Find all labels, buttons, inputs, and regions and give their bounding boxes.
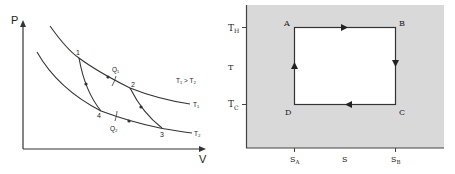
isotherm-cold-label: T₂ xyxy=(194,130,201,137)
tick-sb-label: SB xyxy=(391,155,401,165)
arrow-1-2-icon xyxy=(106,75,109,78)
isotherm-cold xyxy=(37,52,192,133)
v-axis-arrow-icon xyxy=(199,146,206,152)
tick-tc-label: TC xyxy=(228,99,239,111)
cycle-area xyxy=(295,28,396,105)
corner-c-label: C xyxy=(399,108,405,117)
heat-in-label: Q₁ xyxy=(112,66,120,74)
v-axis-label: V xyxy=(199,153,207,165)
point-4-label: 4 xyxy=(97,112,101,119)
t-axis-label: T xyxy=(228,63,234,72)
heat-out-label: Q₂ xyxy=(110,125,118,133)
p-axis-arrow-icon xyxy=(20,20,26,27)
tick-sa-label: SA xyxy=(290,155,300,165)
carnot-cycle-figure: P V 1 2 3 4 Q₁ Q₂ T₁ T₂ T₁ > T₂ xyxy=(0,0,455,174)
tick-th-label: TH xyxy=(228,23,239,34)
ts-diagram: A B C D TH T TC SA S SB xyxy=(228,5,444,165)
isotherm-hot-label: T₁ xyxy=(193,101,200,108)
p-axis-label: P xyxy=(11,14,18,26)
corner-b-label: B xyxy=(399,19,405,28)
condition-label: T₁ > T₂ xyxy=(176,77,196,84)
arrow-2-3-icon xyxy=(139,105,142,108)
arrow-3-4-icon xyxy=(127,119,130,122)
corner-a-label: A xyxy=(283,19,290,28)
arrow-4-1-icon xyxy=(84,82,87,85)
point-2-label: 2 xyxy=(131,81,135,88)
pv-diagram: P V 1 2 3 4 Q₁ Q₂ T₁ T₂ T₁ > T₂ xyxy=(11,14,207,165)
s-axis-label: S xyxy=(342,155,347,164)
point-1-label: 1 xyxy=(76,49,80,56)
point-3-label: 3 xyxy=(160,131,164,138)
corner-d-label: D xyxy=(285,108,291,117)
